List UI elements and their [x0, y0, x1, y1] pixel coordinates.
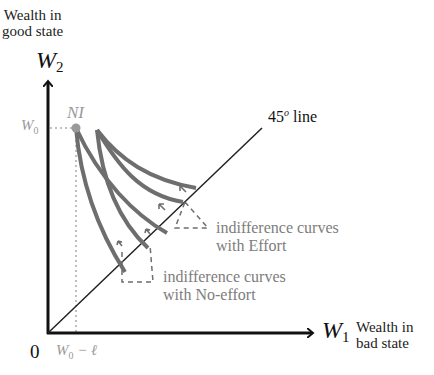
45-degree-suffix: line	[289, 108, 317, 125]
noeffort-annotation-line1: indifference curves	[163, 268, 286, 286]
origin-label: 0	[30, 342, 40, 362]
w0-minus-loss-label: W0 − ℓ	[56, 343, 97, 362]
y-axis-title: Wealth in good state	[2, 8, 63, 40]
effort-annotation-line2: with Effort	[216, 237, 339, 255]
x-axis-variable: W1	[322, 318, 350, 346]
w0-label: W0	[21, 118, 39, 137]
45-degree-number: 45	[268, 108, 284, 125]
y-axis-title-line1: Wealth in	[2, 8, 63, 24]
ni-label: NI	[67, 104, 84, 122]
effort-annotation-line1: indifference curves	[216, 219, 339, 237]
ni-point	[72, 124, 81, 133]
noeffort-callout	[122, 245, 153, 282]
noeffort-annotation: indifference curves with No-effort	[163, 268, 286, 303]
x-axis-title-line1: Wealth in	[356, 320, 414, 336]
indifference-curve-noeffort-high	[97, 130, 148, 248]
w0ml-suffix: − ℓ	[74, 342, 98, 358]
w0ml-var: W	[56, 342, 69, 358]
effort-annotation: indifference curves with Effort	[216, 219, 339, 254]
45-degree-label: 45o line	[268, 108, 317, 126]
noeffort-annotation-line2: with No-effort	[163, 286, 286, 304]
preference-arrows	[117, 186, 186, 246]
w0-sub: 0	[34, 125, 39, 136]
indifference-curve-effort-top	[97, 130, 196, 188]
y-axis-sub: 2	[56, 59, 64, 75]
x-axis-var: W	[322, 317, 342, 343]
y-axis-title-line2: good state	[2, 24, 63, 40]
x-axis-sub: 1	[342, 329, 350, 345]
x-axis-title: Wealth in bad state	[356, 320, 414, 352]
w0-var: W	[21, 117, 34, 133]
y-axis-variable: W2	[36, 48, 64, 76]
y-axis-var: W	[36, 47, 56, 73]
x-axis-title-line2: bad state	[356, 336, 414, 352]
